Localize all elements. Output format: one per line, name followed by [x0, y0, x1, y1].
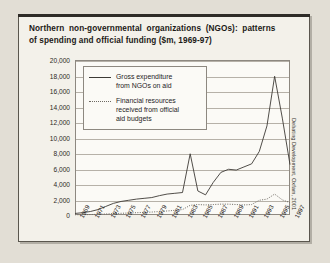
- legend-label-official-aid: Financial resources received from offici…: [116, 96, 179, 124]
- legend-item-official-aid: Financial resources received from offici…: [89, 96, 199, 124]
- y-axis-tick-label: 16,000: [50, 88, 70, 95]
- legend-solid-line-icon: [89, 73, 111, 82]
- legend-label-line-1: Financial resources: [116, 97, 176, 104]
- y-axis-tick-label: 0: [66, 212, 70, 219]
- y-axis-tick-label: 8,000: [53, 150, 70, 157]
- source-credit: Debating Development, Oxfam, 2001: [291, 118, 297, 124]
- chart-title-line-1: Northern non-governmental organizations …: [29, 23, 297, 35]
- y-axis-tick-label: 12,000: [50, 119, 70, 126]
- chart-title-line-2: of spending and official funding ($m, 19…: [29, 35, 297, 47]
- series-line-official-aid: [75, 194, 290, 215]
- legend-item-gross-expenditure: Gross expenditure from NGOs on aid: [89, 72, 199, 91]
- legend-label-gross-expenditure: Gross expenditure from NGOs on aid: [116, 72, 172, 91]
- y-axis-tick-label: 2,000: [53, 196, 70, 203]
- y-axis-tick-label: 18,000: [50, 72, 70, 79]
- chart-title: Northern non-governmental organizations …: [29, 23, 297, 47]
- y-axis-tick-label: 6,000: [53, 165, 70, 172]
- legend-dotted-line-icon: [89, 97, 111, 106]
- y-axis-tick-label: 14,000: [50, 103, 70, 110]
- y-axis-tick-label: 4,000: [53, 181, 70, 188]
- y-axis-tick-label: 10,000: [50, 134, 70, 141]
- y-axis-tick-label: 20,000: [50, 57, 70, 64]
- legend-label-line-2: from NGOs on aid: [116, 82, 172, 89]
- credit-holder: Debating Development, Oxfam, 2001: [295, 115, 305, 255]
- x-axis-tick-labels: 1969197119731975197719791981198319851987…: [75, 216, 290, 260]
- y-axis-tick-labels: 20,00018,00016,00014,00012,00010,0008,00…: [19, 60, 73, 215]
- figure-panel: Northern non-governmental organizations …: [18, 14, 310, 242]
- legend-label-line-3: aid budgets: [116, 115, 152, 122]
- chart-legend: Gross expenditure from NGOs on aid Finan…: [83, 66, 207, 130]
- legend-label-line-1: Gross expenditure: [116, 73, 172, 80]
- figure-root: Northern non-governmental organizations …: [0, 0, 330, 263]
- plot-area-wrapper: Gross expenditure from NGOs on aid Finan…: [75, 60, 290, 215]
- legend-label-line-2: received from official: [116, 106, 179, 113]
